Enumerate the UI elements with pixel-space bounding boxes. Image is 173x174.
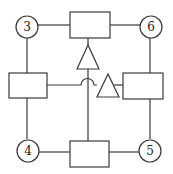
edge-left-box-hop-right-triangle xyxy=(47,79,97,86)
node-3-label: 3 xyxy=(23,20,31,34)
node-6: 6 xyxy=(140,16,162,38)
node-3: 3 xyxy=(16,16,38,38)
upper-triangle xyxy=(77,45,99,69)
top-box xyxy=(70,12,110,38)
node-4-label: 4 xyxy=(24,144,32,158)
bottom-box xyxy=(70,141,109,167)
diagram-canvas: 3 6 4 5 xyxy=(0,0,173,174)
node-5: 5 xyxy=(139,140,161,162)
node-5-label: 5 xyxy=(146,144,154,158)
node-6-label: 6 xyxy=(147,20,155,34)
left-box xyxy=(9,73,47,98)
node-4: 4 xyxy=(17,140,39,162)
right-box xyxy=(123,73,163,99)
